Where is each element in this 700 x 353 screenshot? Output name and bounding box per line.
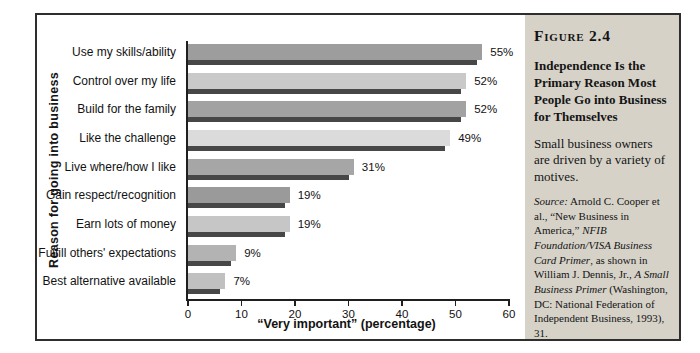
bar-shadow <box>188 117 461 122</box>
bar-value-label: 49% <box>458 130 481 146</box>
bar-value-label: 7% <box>233 273 250 289</box>
category-label: Best alternative available <box>37 273 176 289</box>
figure-subtitle: Small business owners are driven by a va… <box>534 136 669 187</box>
x-tick <box>348 299 350 306</box>
figure-title: Independence Is the Primary Reason Most … <box>534 58 669 126</box>
category-label: Fulfill others' expectations <box>37 245 176 261</box>
bar-shadow <box>188 89 461 94</box>
bar <box>188 216 290 232</box>
x-tick <box>187 299 189 306</box>
figure-source: Source: Arnold C. Cooper et al., “New Bu… <box>534 194 669 340</box>
category-label: Like the challenge <box>37 130 176 146</box>
bar-value-label: 19% <box>298 216 321 232</box>
bar <box>188 73 466 89</box>
bar-value-label: 31% <box>362 159 385 175</box>
x-axis-title: “Very important” (percentage) <box>186 317 507 331</box>
bar-shadow <box>188 261 231 266</box>
category-label: Control over my life <box>37 73 176 89</box>
bar-chart: Reason for going into business Use my sk… <box>37 15 525 339</box>
figure-frame: Reason for going into business Use my sk… <box>35 13 681 341</box>
bar-value-label: 19% <box>298 187 321 203</box>
bar-shadow <box>188 203 285 208</box>
bar-shadow <box>188 60 477 65</box>
bar <box>188 101 466 117</box>
bar-shadow <box>188 175 349 180</box>
bar-value-label: 9% <box>244 245 261 261</box>
bar <box>188 159 354 175</box>
bar <box>188 273 225 289</box>
figure-label: Figure 2.4 <box>534 27 669 45</box>
bar-value-label: 55% <box>490 44 513 60</box>
category-label: Gain respect/recognition <box>37 187 176 203</box>
category-label: Earn lots of money <box>37 216 176 232</box>
plot-area: 55%52%52%49%31%19%19%9%7%0102030405060 <box>186 41 509 301</box>
bar-shadow <box>188 232 285 237</box>
bar <box>188 44 482 60</box>
x-tick <box>401 299 403 306</box>
bar <box>188 187 290 203</box>
bar-value-label: 52% <box>474 101 497 117</box>
bar <box>188 245 236 261</box>
x-tick <box>241 299 243 306</box>
source-italic-segment: Source: <box>534 195 568 207</box>
bar <box>188 130 450 146</box>
page: Reason for going into business Use my sk… <box>0 0 700 353</box>
bar-shadow <box>188 289 220 294</box>
x-tick <box>294 299 296 306</box>
category-label: Use my skills/ability <box>37 44 176 60</box>
bar-shadow <box>188 146 445 151</box>
x-tick <box>455 299 457 306</box>
category-label: Build for the family <box>37 101 176 117</box>
figure-caption-panel: Figure 2.4 Independence Is the Primary R… <box>525 15 679 339</box>
bar-value-label: 52% <box>474 73 497 89</box>
category-labels: Use my skills/abilityControl over my lif… <box>37 41 180 299</box>
x-tick <box>508 299 510 306</box>
category-label: Live where/how I like <box>37 159 176 175</box>
